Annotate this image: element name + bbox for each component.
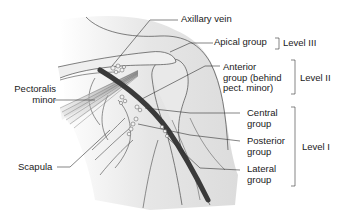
label-lateral-group: Lateral group [247,164,276,185]
central-line1: Central [247,108,278,119]
label-central-group: Central group [247,108,278,129]
lateral-line2: group [247,175,276,186]
label-pectoralis-minor: Pectoralis minor [6,84,56,105]
central-line2: group [247,119,278,130]
label-scapula: Scapula [18,162,52,173]
anterior-line1: Anterior [223,62,282,73]
pectoralis-line1: Pectoralis [6,84,56,95]
anterior-line3: pect. minor) [223,83,282,94]
posterior-line1: Posterior [247,136,285,147]
label-posterior-group: Posterior group [247,136,285,157]
posterior-line2: group [247,147,285,158]
shoulder-illustration [0,0,345,221]
label-level-i: Level I [302,141,330,152]
pectoralis-line2: minor [6,95,56,106]
label-level-ii: Level II [300,72,331,83]
level-brackets [275,38,295,186]
label-axillary-vein: Axillary vein [181,14,232,25]
axillary-diagram: Axillary vein Apical group Level III Ant… [0,0,345,221]
lateral-line1: Lateral [247,164,276,175]
label-anterior-group: Anterior group (behind pect. minor) [223,62,282,94]
label-level-iii: Level III [283,37,316,48]
label-apical-group: Apical group [214,37,267,48]
